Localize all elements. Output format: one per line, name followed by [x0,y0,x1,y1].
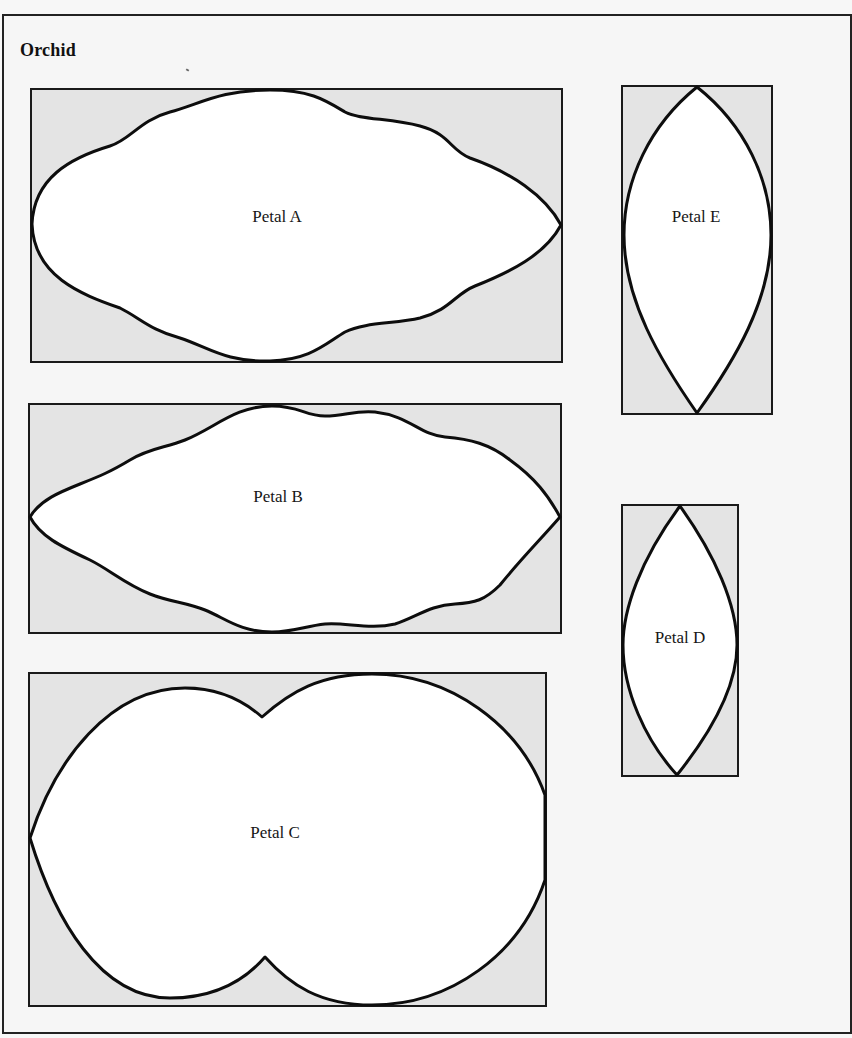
petal-c-label: Petal C [250,823,300,843]
petal-a-label: Petal A [252,207,302,227]
petal-b-group [29,404,561,633]
petal-d-label: Petal D [655,628,706,648]
petal-e-group [622,86,772,414]
petal-e-label: Petal E [672,207,721,227]
petal-b-label: Petal B [253,487,303,507]
